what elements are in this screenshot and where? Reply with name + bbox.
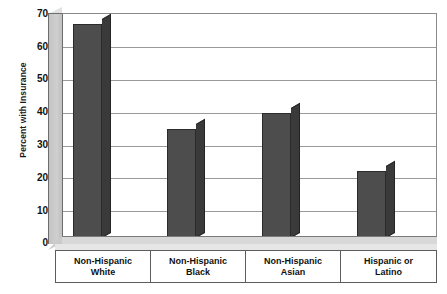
y-tick-label-20: 20 [22,173,48,183]
bar-non-hispanic-asian [262,113,291,243]
bar-side-face [102,14,111,238]
category-box-non-hispanic-white: Non-Hispanic White [55,250,151,283]
category-label-line1: Hispanic or [364,256,413,267]
y-tick-label-70: 70 [22,9,48,19]
y-tick-label-0: 0 [22,238,48,248]
gridline-60 [63,47,436,48]
bar-side-face [291,103,300,238]
category-box-non-hispanic-black: Non-Hispanic Black [150,250,246,283]
bar-front-face [262,113,291,243]
y-tick-label-50: 50 [22,74,48,84]
gridline-50 [63,80,436,81]
bar-side-face [386,161,395,238]
bar-front-face [73,24,102,243]
bar-non-hispanic-white [73,24,102,243]
bar-front-face [167,129,196,243]
y-tick-label-10: 10 [22,206,48,216]
category-box-hispanic-or-latino: Hispanic or Latino [340,250,437,283]
bar-side-face [196,119,205,238]
y-tick-label-30: 30 [22,140,48,150]
y-axis-tick-labels: 70 60 50 40 30 20 10 0 [22,0,48,294]
y-tick-label-60: 60 [22,42,48,52]
y-tick-label-40: 40 [22,107,48,117]
category-label-line2: Asian [281,267,306,278]
category-label-line1: Non-Hispanic [264,256,322,267]
bar-non-hispanic-black [167,129,196,243]
category-box-non-hispanic-asian: Non-Hispanic Asian [245,250,341,283]
chart-left-wall [48,13,63,244]
category-label-line2: Latino [375,267,402,278]
x-axis-category-labels: Non-Hispanic White Non-Hispanic Black No… [55,250,437,283]
category-label-line2: White [91,267,116,278]
category-label-line1: Non-Hispanic [169,256,227,267]
category-label-line2: Black [186,267,210,278]
category-label-line1: Non-Hispanic [74,256,132,267]
bar-hispanic-or-latino [357,171,386,243]
gridline-30 [63,146,436,147]
gridline-40 [63,113,436,114]
bar-front-face [357,171,386,243]
chart-figure: Percent with Insurance 70 60 50 40 30 20… [0,0,447,294]
